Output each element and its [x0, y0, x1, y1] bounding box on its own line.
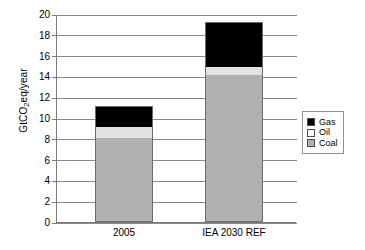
y-axis-tick-label: 18	[39, 31, 50, 41]
y-axis-tick-label: 6	[44, 156, 50, 166]
y-axis-tick	[52, 202, 57, 203]
y-axis-tick-label: 4	[44, 176, 50, 186]
y-gridline	[57, 15, 297, 16]
legend-swatch-oil-icon	[307, 129, 315, 137]
plot-area: 024681012141618202005IEA 2030 REF	[56, 15, 296, 223]
legend-item-oil[interactable]: Oil	[307, 128, 338, 137]
y-axis-tick-label: 14	[39, 72, 50, 82]
y-axis-tick-label: 0	[44, 218, 50, 228]
legend-label: Oil	[319, 128, 330, 137]
legend-label: Gas	[319, 118, 336, 127]
y-axis-tick	[52, 98, 57, 99]
legend-label: Coal	[319, 139, 338, 148]
bar-segment-coal[interactable]	[206, 75, 262, 221]
y-axis-title: GtCO2eq/year	[18, 41, 29, 161]
bar-segment-oil[interactable]	[206, 67, 262, 75]
y-axis-tick-label: 16	[39, 52, 50, 62]
bar-2005[interactable]	[95, 106, 153, 222]
y-axis-tick-label: 12	[39, 93, 50, 103]
y-axis-tick	[52, 119, 57, 120]
y-axis-title-subscript: 2	[21, 102, 30, 106]
chart-legend: GasOilCoal	[302, 111, 344, 154]
bar-segment-gas[interactable]	[206, 23, 262, 67]
stacked-bar-chart: GtCO2eq/year 024681012141618202005IEA 20…	[0, 0, 365, 250]
bar-iea-2030-ref[interactable]	[205, 22, 263, 222]
y-axis-tick	[52, 181, 57, 182]
y-axis-title-post: eq/year	[18, 68, 29, 102]
bar-segment-gas[interactable]	[96, 107, 152, 128]
y-axis-tick	[52, 35, 57, 36]
y-gridline	[57, 223, 297, 224]
y-axis-tick	[52, 15, 57, 16]
y-axis-tick-label: 20	[39, 10, 50, 20]
bar-segment-oil[interactable]	[96, 127, 152, 137]
y-axis-tick-label: 8	[44, 135, 50, 145]
y-axis-tick	[52, 77, 57, 78]
y-axis-tick	[52, 56, 57, 57]
x-axis-tick-label: 2005	[113, 227, 135, 238]
y-axis-tick-label: 2	[44, 197, 50, 207]
legend-item-coal[interactable]: Coal	[307, 139, 338, 148]
y-axis-tick	[52, 160, 57, 161]
y-axis-tick	[52, 139, 57, 140]
y-axis-tick	[52, 223, 57, 224]
legend-item-gas[interactable]: Gas	[307, 118, 338, 127]
legend-swatch-gas-icon	[307, 118, 315, 126]
y-axis-title-pre: GtCO	[18, 107, 29, 133]
legend-swatch-coal-icon	[307, 139, 315, 147]
y-axis-tick-label: 10	[39, 114, 50, 124]
x-axis-tick-label: IEA 2030 REF	[202, 227, 265, 238]
bar-segment-coal[interactable]	[96, 138, 152, 221]
